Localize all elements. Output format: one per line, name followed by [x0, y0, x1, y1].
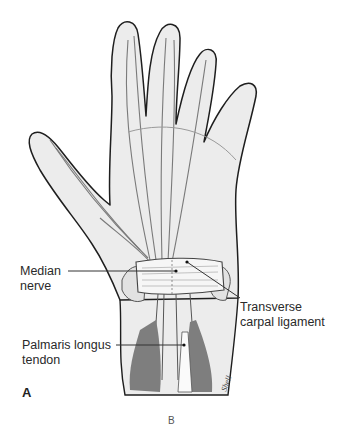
label-median-nerve-line1: Median [20, 264, 61, 279]
label-pl-line1: Palmaris longus [22, 338, 111, 353]
panel-label: A [22, 385, 31, 400]
next-panel-fragment: B [168, 415, 175, 426]
label-tcl-line2: carpal ligament [240, 315, 325, 330]
label-transverse-carpal-ligament: Transverse carpal ligament [240, 300, 325, 330]
label-median-nerve-line2: nerve [20, 279, 61, 294]
label-pl-line2: tendon [22, 353, 111, 368]
transverse-carpal-ligament [136, 258, 224, 294]
label-tcl-line1: Transverse [240, 300, 325, 315]
hand-outline [29, 22, 256, 300]
label-palmaris-longus-tendon: Palmaris longus tendon [22, 338, 111, 368]
label-median-nerve: Median nerve [20, 264, 61, 294]
